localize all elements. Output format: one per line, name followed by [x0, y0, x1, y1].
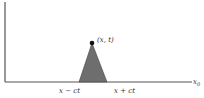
dependence-triangle	[79, 43, 107, 82]
diagram-canvas: (x, t) x − ct x + ct x0	[0, 0, 204, 98]
point-label: (x, t)	[97, 36, 114, 44]
right-base-label: x + ct	[114, 87, 135, 95]
point-marker	[90, 41, 95, 46]
x-axis-label: x0	[193, 78, 201, 87]
left-base-label: x − ct	[59, 87, 80, 95]
